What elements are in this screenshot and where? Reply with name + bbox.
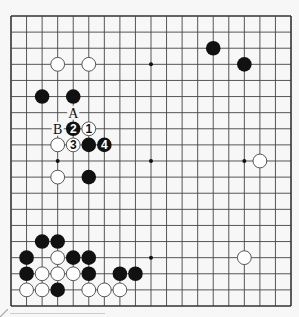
- black-stone: [237, 57, 252, 72]
- white-stone-move-1: 1: [82, 122, 96, 136]
- black-stone: [128, 266, 143, 281]
- black-stone: [81, 250, 96, 265]
- white-stone: [20, 283, 34, 297]
- black-stone: [66, 250, 81, 265]
- black-stone: [81, 266, 96, 281]
- white-stone: [253, 154, 267, 168]
- black-stone: [19, 250, 34, 265]
- move-number: 1: [85, 122, 92, 136]
- scan-artifact: [0, 309, 8, 317]
- star-point: [149, 256, 153, 260]
- black-stone-move-2: 2: [66, 121, 81, 136]
- point-label-a: A: [68, 106, 79, 121]
- black-stone-move-4: 4: [97, 138, 112, 153]
- white-stone: [51, 170, 65, 184]
- go-board: AB 2134: [0, 0, 299, 317]
- black-stone: [206, 41, 221, 56]
- black-stone: [66, 89, 81, 104]
- star-point: [149, 159, 153, 163]
- black-stone: [81, 170, 96, 185]
- move-number: 3: [70, 138, 77, 152]
- star-point: [56, 159, 60, 163]
- star-point: [149, 62, 153, 66]
- black-stone: [113, 266, 128, 281]
- white-stone: [66, 267, 80, 281]
- black-stone: [50, 234, 65, 249]
- black-stone: [35, 89, 50, 104]
- white-stone: [35, 267, 49, 281]
- white-stone: [237, 251, 251, 265]
- black-stone: [81, 138, 96, 153]
- point-label-b: B: [53, 122, 62, 137]
- white-stone: [51, 57, 65, 71]
- white-stone: [113, 283, 127, 297]
- black-stone: [50, 283, 65, 298]
- scan-artifact-line: [10, 313, 105, 314]
- black-stone: [35, 234, 50, 249]
- white-stone: [97, 283, 111, 297]
- move-number: 2: [70, 122, 77, 136]
- white-stone-move-3: 3: [66, 138, 80, 152]
- move-number: 4: [101, 138, 108, 152]
- white-stone: [82, 57, 96, 71]
- stones: 2134: [19, 41, 267, 297]
- white-stone: [51, 251, 65, 265]
- white-stone: [51, 267, 65, 281]
- white-stone: [35, 283, 49, 297]
- star-point: [242, 159, 246, 163]
- white-stone: [51, 138, 65, 152]
- black-stone: [19, 266, 34, 281]
- white-stone: [82, 283, 96, 297]
